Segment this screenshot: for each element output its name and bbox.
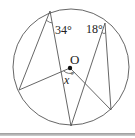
circle-diagram: 34° 18° O x ° (0, 0, 135, 138)
unknown-angle-degree: ° (71, 71, 74, 80)
segment-o-e (70, 68, 111, 110)
segment-b-e (105, 23, 111, 110)
bottom-divider (0, 133, 135, 136)
center-label-o: O (70, 52, 79, 67)
unknown-angle-label: x (63, 73, 70, 87)
angle-label-34: 34° (55, 23, 72, 37)
angle-label-18: 18° (86, 22, 103, 36)
